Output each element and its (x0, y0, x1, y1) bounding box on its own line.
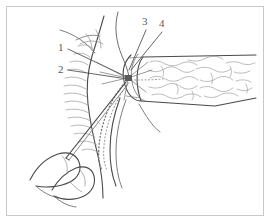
callout-label-1: 1 (58, 42, 64, 53)
upper-diagonal-guide-curve (116, 12, 129, 77)
convergence-point-marker (125, 75, 132, 81)
callout-label-3: 3 (142, 16, 148, 27)
fingers-holding-instrument (30, 153, 95, 207)
leader-line-4 (131, 32, 162, 70)
figure-root: 1 2 3 4 (0, 0, 272, 224)
callout-label-4: 4 (159, 18, 165, 29)
tissue-striation-texture (148, 56, 255, 100)
leader-line-3 (129, 30, 146, 70)
needle-instrument-shaft (66, 82, 128, 160)
dotted-catheter-path (99, 79, 163, 170)
tube-cannula (110, 98, 160, 188)
callout-label-2: 2 (58, 64, 64, 75)
anatomical-line-drawing (0, 0, 272, 224)
